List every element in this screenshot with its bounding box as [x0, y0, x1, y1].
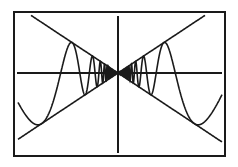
oscillating-curve — [18, 42, 222, 124]
graph-screen — [0, 0, 238, 167]
window-frame — [14, 12, 225, 156]
